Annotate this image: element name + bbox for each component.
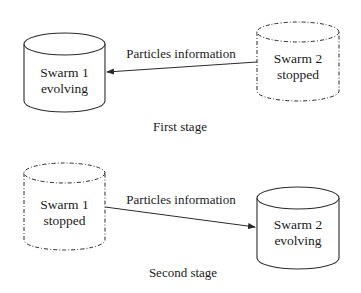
stage-caption: First stage <box>153 119 207 134</box>
node-label-line1: Swarm 1 <box>40 65 88 80</box>
arrow-left-icon <box>107 62 257 72</box>
cylinder-swarm1-stopped: Swarm 1 stopped <box>24 163 105 250</box>
node-label-line2: stopped <box>44 213 86 228</box>
edge-particles-information-stage2: Particles information <box>105 192 255 227</box>
node-label-line2: evolving <box>41 81 88 96</box>
node-label-line1: Swarm 1 <box>40 197 88 212</box>
edge-label: Particles information <box>126 46 236 61</box>
edge-label: Particles information <box>126 192 236 207</box>
stage-first: Swarm 1 evolving Swarm 2 stopped Particl… <box>24 22 339 134</box>
two-stage-swarm-diagram: Swarm 1 evolving Swarm 2 stopped Particl… <box>0 0 361 293</box>
stage-caption: Second stage <box>149 265 217 280</box>
stage-second: Swarm 1 stopped Swarm 2 evolving Particl… <box>24 163 339 280</box>
cylinder-swarm2-evolving: Swarm 2 evolving <box>257 187 339 269</box>
node-label-line2: evolving <box>274 233 321 248</box>
cylinder-swarm1-evolving: Swarm 1 evolving <box>24 33 105 112</box>
node-label-line1: Swarm 2 <box>274 217 322 232</box>
node-label-line1: Swarm 2 <box>274 51 322 66</box>
cylinder-swarm2-stopped: Swarm 2 stopped <box>257 22 339 101</box>
node-label-line2: stopped <box>277 67 319 82</box>
edge-particles-information-stage1: Particles information <box>107 46 257 72</box>
arrow-right-icon <box>105 207 255 227</box>
